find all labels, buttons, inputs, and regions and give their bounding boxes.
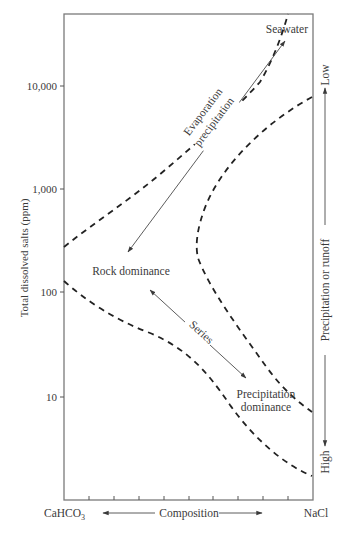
x-axis-right-label: NaCl	[304, 507, 328, 519]
y-tick-label-1000: 1,000	[32, 183, 57, 195]
right-axis-low-label: Low	[319, 64, 331, 86]
y-tick-label-10: 10	[46, 391, 58, 403]
x-axis-left-label: CaHCO3	[44, 507, 85, 522]
lower-outer-boundary	[64, 281, 312, 476]
rock-dominance-label: Rock dominance	[92, 265, 170, 277]
y-tick-label-10000: 10,000	[27, 80, 58, 92]
gibbs-diagram: 10,000 1,000 100 10 Total dissolved salt…	[0, 0, 344, 535]
seawater-label: Seawater	[266, 23, 308, 35]
y-tick-label-100: 100	[41, 286, 58, 298]
plot-frame	[64, 14, 313, 500]
precipitation-dominance-label-line2: dominance	[241, 401, 291, 413]
right-axis-title: Precipitation or runoff	[319, 239, 332, 342]
precipitation-dominance-label-line1: Precipitation	[237, 388, 296, 401]
y-axis-title: Total dissolved salts (ppm)	[18, 198, 31, 317]
right-axis-high-label: High	[319, 450, 332, 473]
upper-outer-boundary	[64, 14, 288, 247]
x-axis-center-label: Composition	[159, 507, 219, 520]
